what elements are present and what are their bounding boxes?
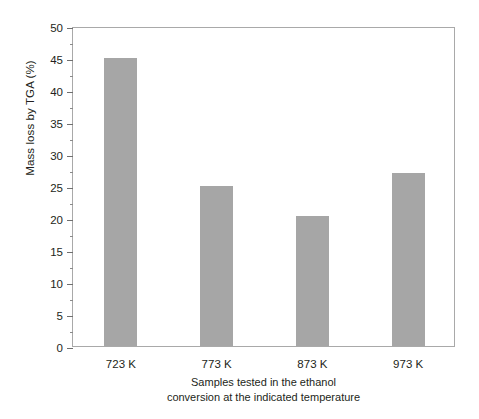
y-axis-minor-tick: [70, 236, 74, 237]
plot-area: 05101520253035404550 723 K773 K873 K973 …: [72, 27, 455, 347]
y-axis-tick: [67, 316, 73, 317]
bar: [296, 216, 329, 346]
y-axis-minor-tick: [70, 300, 74, 301]
x-axis-title: Samples tested in the ethanol conversion…: [72, 375, 455, 405]
y-axis-tick: [67, 348, 73, 349]
y-axis-tick: [67, 220, 73, 221]
x-axis-tick-label: 723 K: [106, 358, 136, 370]
y-axis-minor-tick: [70, 140, 74, 141]
y-axis-tick: [67, 92, 73, 93]
y-axis-tick-label: 0: [57, 342, 63, 354]
y-axis-tick-label: 30: [50, 150, 63, 162]
y-axis-tick: [67, 156, 73, 157]
y-axis-tick: [67, 124, 73, 125]
y-axis-tick-label: 20: [50, 214, 63, 226]
y-axis-tick-label: 50: [50, 22, 63, 34]
y-axis-minor-tick: [70, 76, 74, 77]
bar: [392, 173, 425, 346]
y-axis-tick-label: 40: [50, 86, 63, 98]
y-axis-tick-label: 35: [50, 118, 63, 130]
y-axis-tick-label: 5: [57, 310, 63, 322]
y-axis-title: Mass loss by TGA (%): [24, 18, 36, 218]
y-axis-tick-label: 25: [50, 182, 63, 194]
x-axis-tick-label: 973 K: [393, 358, 423, 370]
y-axis-tick: [67, 252, 73, 253]
y-axis-tick-label: 15: [50, 246, 63, 258]
y-axis-tick-label: 45: [50, 54, 63, 66]
y-axis-tick: [67, 28, 73, 29]
x-axis-title-line-2: conversion at the indicated temperature: [72, 390, 455, 405]
x-axis-tick-label: 773 K: [202, 358, 232, 370]
y-axis-minor-tick: [70, 108, 74, 109]
figure: Mass loss by TGA (%) 0510152025303540455…: [0, 0, 479, 419]
bar: [200, 186, 233, 346]
y-axis-tick: [67, 284, 73, 285]
x-axis-tick-label: 873 K: [297, 358, 327, 370]
y-axis-minor-tick: [70, 332, 74, 333]
x-axis-title-line-1: Samples tested in the ethanol: [72, 375, 455, 390]
y-axis-minor-tick: [70, 172, 74, 173]
y-axis-tick-label: 10: [50, 278, 63, 290]
bar: [104, 58, 137, 346]
y-axis-tick: [67, 188, 73, 189]
y-axis-minor-tick: [70, 204, 74, 205]
y-axis-minor-tick: [70, 268, 74, 269]
y-axis-tick: [67, 60, 73, 61]
y-axis-minor-tick: [70, 44, 74, 45]
